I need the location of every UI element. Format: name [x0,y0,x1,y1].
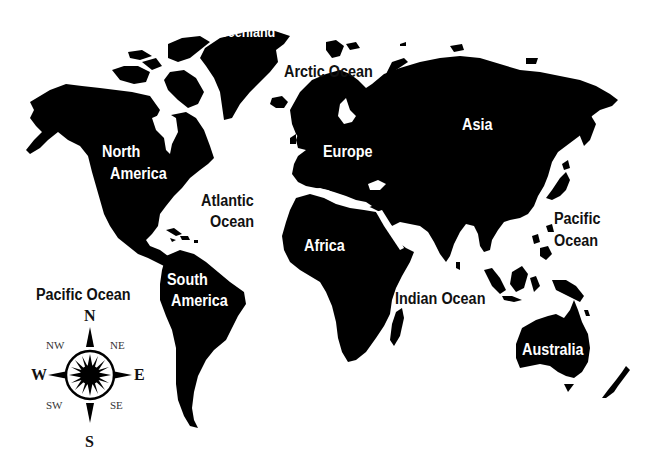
compass-rose: N S W E NW NE SW SE [20,305,160,455]
landmass-svalbard [326,40,360,58]
landmass-borneo [510,266,528,292]
label-atlantic-line1: Atlantic [201,191,254,210]
label-australia: Australia [522,340,584,359]
compass-west: W [31,366,47,384]
label-asia: Asia [462,115,492,134]
compass-south: S [85,433,94,451]
landmass-java [502,296,522,302]
landmass-new-guinea [552,280,584,302]
world-map: Greenland Arctic Ocean Asia North Americ… [0,0,651,459]
compass-north: N [84,307,96,325]
landmass-sumatra [484,268,506,294]
compass-southeast: SE [110,399,123,411]
landmass-sulawesi [530,276,540,292]
label-north-america-line2: America [110,164,167,183]
label-pacific-east-line2: Ocean [554,231,598,250]
label-pacific-west: Pacific Ocean [36,285,130,304]
label-indian-ocean: Indian Ocean [395,289,485,308]
compass-northwest: NW [46,339,64,351]
label-arctic-ocean: Arctic Ocean [284,62,373,81]
label-south-america-line2: America [171,291,228,310]
compass-northeast: NE [110,339,125,351]
label-europe: Europe [323,142,373,161]
label-south-america-line1: South [167,270,208,289]
landmass-caribbean [166,228,198,243]
compass-southwest: SW [46,399,63,411]
label-africa: Africa [304,236,345,255]
label-pacific-east-line1: Pacific [554,209,600,228]
label-greenland: Greenland [213,23,275,42]
landmass-tasmania [564,384,574,392]
label-north-america-line1: North [102,142,140,161]
landmass-sri-lanka [456,262,460,270]
landmass-australia [516,300,590,378]
compass-east: E [134,366,145,384]
landmass-iceland [270,96,288,108]
landmass-madagascar [390,308,404,346]
landmass-philippines [532,234,552,260]
landmass-new-zealand [602,366,630,398]
landmass-kamchatka [580,114,596,146]
label-atlantic-line2: Ocean [210,212,254,231]
